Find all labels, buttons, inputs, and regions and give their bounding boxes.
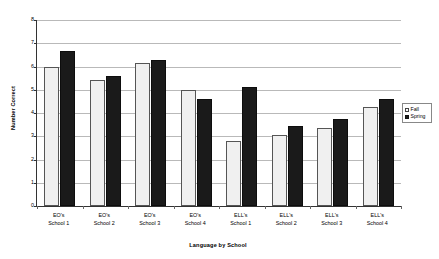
x-tick-mark	[128, 206, 129, 209]
x-tick-mark	[356, 206, 357, 209]
legend-item-fall: Fall	[405, 106, 429, 113]
x-category-label: ELL'sSchool 4	[347, 212, 407, 227]
bar-fall	[181, 90, 196, 206]
bar-group	[83, 20, 129, 206]
x-tick-mark	[83, 206, 84, 209]
legend-item-spring: Spring	[405, 113, 429, 120]
bar-spring	[197, 99, 212, 206]
bar-fall	[44, 67, 59, 207]
bar-fall	[363, 107, 378, 206]
legend-swatch-fall	[405, 108, 409, 112]
bar-spring	[379, 99, 394, 206]
chart-legend: Fall Spring	[402, 103, 432, 123]
y-tick-label: 7	[31, 41, 34, 46]
x-axis-title: Language by School	[36, 242, 400, 248]
bar-group	[356, 20, 402, 206]
plot-area: 012345678	[36, 20, 401, 207]
legend-label-spring: Spring	[411, 113, 426, 120]
bar-spring	[60, 51, 75, 206]
x-tick-mark	[401, 206, 402, 209]
bar-group	[128, 20, 174, 206]
y-tick-label: 1	[31, 180, 34, 185]
bar-spring	[151, 60, 166, 206]
bar-fall	[226, 141, 241, 206]
bar-spring	[106, 76, 121, 206]
legend-swatch-spring	[405, 115, 409, 119]
bar-group	[310, 20, 356, 206]
y-tick-label: 4	[31, 110, 34, 115]
bar-fall	[90, 80, 105, 206]
x-tick-mark	[265, 206, 266, 209]
bar-spring	[333, 119, 348, 206]
bar-fall	[317, 128, 332, 206]
bar-group	[219, 20, 265, 206]
x-tick-mark	[174, 206, 175, 209]
y-tick-label: 5	[31, 87, 34, 92]
y-tick-label: 2	[31, 157, 34, 162]
bar-group	[174, 20, 220, 206]
bar-spring	[288, 126, 303, 206]
x-tick-mark	[37, 206, 38, 209]
y-tick-label: 6	[31, 64, 34, 69]
bar-group	[265, 20, 311, 206]
x-tick-mark	[310, 206, 311, 209]
bar-fall	[272, 135, 287, 206]
x-tick-mark	[219, 206, 220, 209]
bar-chart: Number Correct 012345678 Language by Sch…	[0, 0, 439, 259]
x-category-line1: ELL's	[347, 212, 407, 220]
y-tick-label: 0	[31, 203, 34, 208]
bar-group	[37, 20, 83, 206]
bar-spring	[242, 87, 257, 206]
y-tick-label: 3	[31, 134, 34, 139]
bar-fall	[135, 63, 150, 206]
y-tick-label: 8	[31, 17, 34, 22]
y-axis-title: Number Correct	[10, 63, 16, 153]
legend-label-fall: Fall	[411, 106, 419, 113]
x-category-line2: School 4	[347, 220, 407, 228]
